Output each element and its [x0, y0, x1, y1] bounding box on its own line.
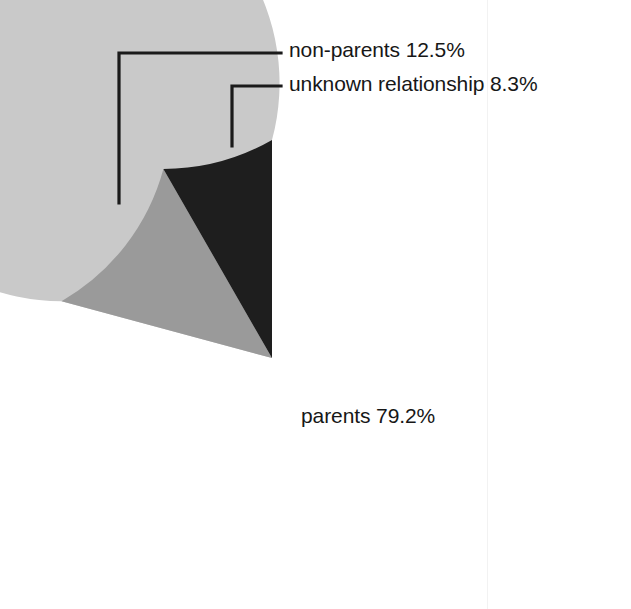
- slice-label-parents: parents 79.2%: [301, 404, 435, 428]
- slice-label-non-parents: non-parents 12.5%: [289, 38, 465, 62]
- slice-label-unknown-relationship: unknown relationship 8.3%: [289, 72, 538, 96]
